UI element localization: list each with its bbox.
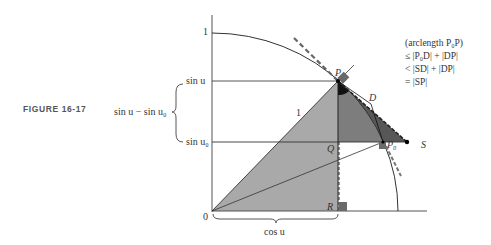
point-P-text: P xyxy=(335,67,341,78)
point-P xyxy=(336,79,340,83)
figure-caption: FIGURE 16-17 xyxy=(23,104,86,114)
brace-cos-u xyxy=(213,214,338,223)
figure-16-17: FIGURE 16-17 1 0 sin u sin u₀ sin u − si… xyxy=(0,0,491,245)
point-label-P: P xyxy=(335,67,341,78)
radius-one-label: 1 xyxy=(296,107,301,118)
arclength-inequality: (arclength P₀P) ≤ |P₀D| + |DP| < |SD| + … xyxy=(405,37,463,89)
point-P0-text: P₀ xyxy=(387,139,397,150)
point-S-text: S xyxy=(421,139,426,150)
point-label-S: S xyxy=(421,139,426,150)
point-label-Q: Q xyxy=(327,143,334,154)
sin-diff-label: sin u − sin u₀ xyxy=(114,106,166,117)
inequality-line-4: = |SP| xyxy=(405,76,463,89)
origin-label: 0 xyxy=(203,211,208,222)
right-angle-marker-R xyxy=(339,202,347,211)
point-Q-text: Q xyxy=(327,143,334,154)
inequality-line-1: (arclength P₀P) xyxy=(405,37,463,50)
brace-sin-diff xyxy=(172,84,183,142)
point-D-text: D xyxy=(369,92,376,103)
sin-u0-label: sin u₀ xyxy=(186,136,209,147)
point-S xyxy=(405,140,409,144)
point-R-text: R xyxy=(327,201,333,212)
y-tick-one: 1 xyxy=(203,26,208,37)
sin-u-label: sin u xyxy=(186,75,205,86)
point-label-R: R xyxy=(327,201,333,212)
tangent-at-P xyxy=(294,38,338,81)
point-label-D: D xyxy=(369,92,376,103)
inequality-line-2: ≤ |P₀D| + |DP| xyxy=(405,50,463,63)
inequality-line-3: < |SD| + |DP| xyxy=(405,63,463,76)
cos-u-label: cos u xyxy=(264,226,285,237)
point-P0 xyxy=(381,140,384,143)
point-label-P0: P₀ xyxy=(387,139,397,150)
